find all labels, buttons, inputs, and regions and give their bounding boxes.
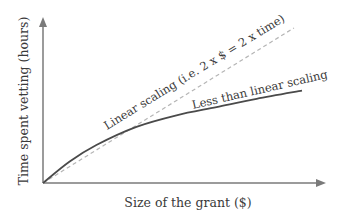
y-axis-arrow	[39, 17, 47, 27]
chart: Linear scaling (i.e. 2 x $ = 2 x time) L…	[0, 0, 338, 221]
y-axis-label: Time spent vetting (hours)	[16, 17, 31, 186]
series-group	[43, 28, 302, 183]
annotation-less-than-linear: Less than linear scaling	[191, 67, 330, 112]
axes	[39, 17, 326, 187]
series-linear-scaling	[43, 28, 294, 183]
x-axis-arrow	[316, 179, 326, 187]
series-less-than-linear	[43, 91, 302, 183]
annotation-linear-scaling: Linear scaling (i.e. 2 x $ = 2 x time)	[101, 11, 287, 132]
x-axis-label: Size of the grant ($)	[124, 195, 251, 210]
